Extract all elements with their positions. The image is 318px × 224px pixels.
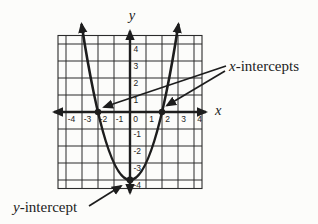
parabola-left-arm xyxy=(82,24,131,180)
y-tick-label: -3 xyxy=(134,163,142,173)
x-intercept-point-left xyxy=(95,109,101,115)
y-axis-label: y xyxy=(127,7,136,23)
x-tick-label: -4 xyxy=(68,114,76,124)
y-tick-label: -4 xyxy=(134,180,142,190)
x-tick-label: 4 xyxy=(197,114,202,124)
y-tick-label: 3 xyxy=(134,61,139,71)
y-intercept-annotation: y-intercept xyxy=(11,199,78,215)
x-axis-label: x xyxy=(214,102,222,118)
x-tick-label: 2 xyxy=(165,114,170,124)
y-intercept-annotation-text: -intercept xyxy=(20,199,78,215)
x-tick-label: -1 xyxy=(116,114,124,124)
y-intercept-annotation-var: y xyxy=(11,199,20,215)
graph-figure: y x -4 -3 -2 -1 0 1 2 3 4 4 3 2 1 -1 -2 … xyxy=(0,0,318,224)
x-intercept-point-right xyxy=(159,109,165,115)
x-tick-label: 0 xyxy=(133,114,138,124)
x-intercepts-annotation: x-intercepts xyxy=(228,58,299,74)
y-tick-label: 2 xyxy=(134,78,139,88)
x-tick-labels: -4 -3 -2 -1 0 1 2 3 4 xyxy=(68,114,202,124)
y-tick-label: -2 xyxy=(134,146,142,156)
x-tick-label: -3 xyxy=(84,114,92,124)
x-intercepts-annotation-text: -intercepts xyxy=(236,58,299,74)
y-tick-label: -1 xyxy=(134,129,142,139)
parabola-graph: y x -4 -3 -2 -1 0 1 2 3 4 4 3 2 1 -1 -2 … xyxy=(0,0,318,224)
x-tick-label: 3 xyxy=(181,114,186,124)
y-tick-label: 4 xyxy=(134,44,139,54)
x-tick-label: 1 xyxy=(149,114,154,124)
y-intercept-point xyxy=(127,177,134,184)
